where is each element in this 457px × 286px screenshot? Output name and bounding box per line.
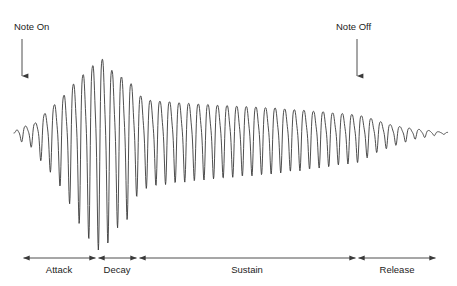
phase-label-release: Release	[380, 264, 415, 275]
phase-label-attack: Attack	[46, 264, 73, 275]
adsr-waveform-figure: Note On Note Off AttackDecaySustainRelea…	[0, 0, 457, 286]
phase-label-decay: Decay	[104, 264, 131, 275]
note-off-label: Note Off	[336, 21, 372, 32]
figure-background	[0, 0, 457, 286]
phase-label-sustain: Sustain	[231, 264, 263, 275]
waveform-diagram-canvas: Note On Note Off AttackDecaySustainRelea…	[0, 0, 457, 286]
note-on-label: Note On	[14, 21, 49, 32]
